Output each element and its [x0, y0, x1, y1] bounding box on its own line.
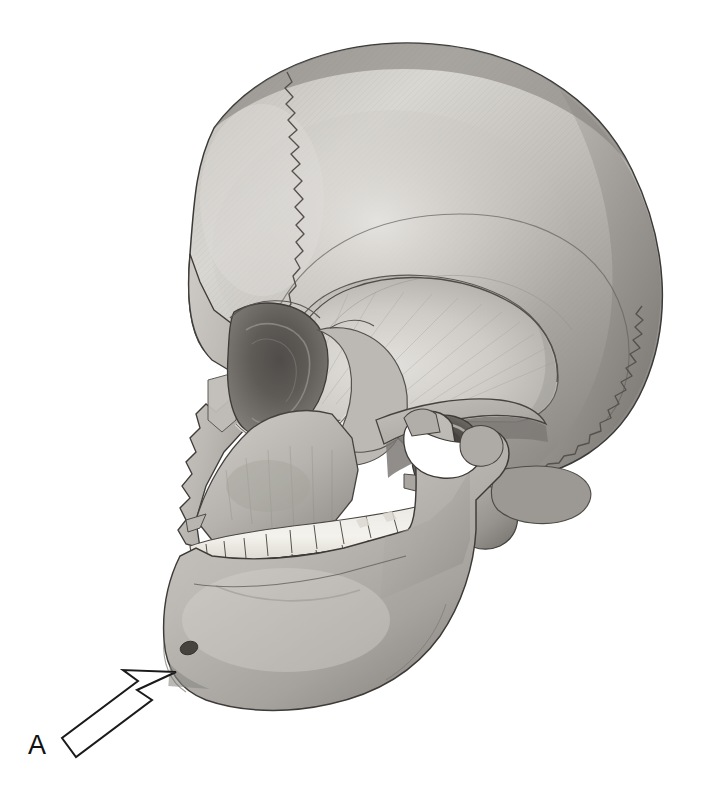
canine-fossa-shadow — [226, 460, 310, 512]
mandibular-condyle — [460, 426, 503, 467]
skull-illustration: A — [0, 0, 714, 801]
occipital-inferior — [491, 466, 590, 524]
skull-figure: A — [0, 0, 714, 801]
annotation-label-a: A — [28, 730, 46, 760]
